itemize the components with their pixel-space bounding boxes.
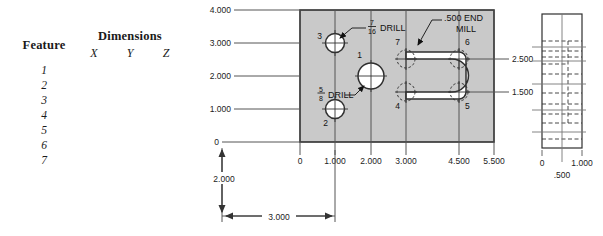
cell-2-y[interactable] bbox=[112, 77, 148, 92]
cell-1-z[interactable] bbox=[148, 62, 184, 77]
feature-label-6: 6 bbox=[465, 37, 470, 47]
origin-dim-vertical: 2.000 bbox=[213, 174, 235, 184]
cell-4-y[interactable] bbox=[112, 107, 148, 122]
side-x-tick-1000: 1.000 bbox=[571, 158, 593, 168]
row-label-6: 6 bbox=[12, 137, 76, 152]
table-row[interactable]: 6 bbox=[12, 137, 184, 152]
end-mill-label-line1: .500 END bbox=[444, 13, 484, 23]
y-tick-0: 0 bbox=[214, 137, 219, 147]
row-label-2: 2 bbox=[12, 77, 76, 92]
cell-1-x[interactable] bbox=[76, 62, 112, 77]
table-row[interactable]: 2 bbox=[12, 77, 184, 92]
origin-dimensions: 2.000 3.000 bbox=[210, 148, 335, 222]
cell-3-z[interactable] bbox=[148, 92, 184, 107]
table-row[interactable]: 1 bbox=[12, 62, 184, 77]
end-mill-label-line2: MILL bbox=[456, 24, 476, 34]
feature-label-3: 3 bbox=[317, 31, 322, 41]
row-label-1: 1 bbox=[12, 62, 76, 77]
table-row[interactable]: 7 bbox=[12, 152, 184, 167]
side-thickness-label: .500 bbox=[554, 170, 571, 180]
feature-label-7: 7 bbox=[395, 37, 400, 47]
header-axis-z: Z bbox=[148, 46, 184, 63]
cell-5-x[interactable] bbox=[76, 122, 112, 137]
cell-7-x[interactable] bbox=[76, 152, 112, 167]
feature-label-5: 5 bbox=[465, 101, 470, 111]
table-row[interactable]: 5 bbox=[12, 122, 184, 137]
drill-716-denominator: 16 bbox=[368, 28, 376, 35]
part-plan-view: 4.000 3.000 2.000 1.000 0 0 1.000 2.000 … bbox=[204, 0, 534, 236]
drill-716-label: DRILL bbox=[380, 23, 406, 33]
row-label-3: 3 bbox=[12, 92, 76, 107]
x-tick-5500: 5.500 bbox=[483, 156, 505, 166]
feature-label-2: 2 bbox=[323, 118, 328, 128]
cell-7-z[interactable] bbox=[148, 152, 184, 167]
table-row[interactable]: 4 bbox=[12, 107, 184, 122]
y-tick-2000: 2.000 bbox=[210, 71, 232, 81]
y-tick-1000: 1.000 bbox=[210, 104, 232, 114]
feature-table: Feature Dimensions X Y Z 1 2 3 bbox=[12, 28, 184, 167]
side-x-tick-0: 0 bbox=[540, 158, 545, 168]
header-axis-x: X bbox=[76, 46, 112, 63]
feature-label-1: 1 bbox=[357, 50, 362, 60]
header-feature: Feature bbox=[12, 28, 76, 62]
drill-716-numerator: 7 bbox=[370, 19, 374, 26]
x-tick-2000: 2.000 bbox=[360, 156, 382, 166]
drill-58-numerator: 5 bbox=[319, 86, 323, 93]
cell-3-x[interactable] bbox=[76, 92, 112, 107]
cell-5-z[interactable] bbox=[148, 122, 184, 137]
x-tick-4500: 4.500 bbox=[448, 156, 470, 166]
cell-1-y[interactable] bbox=[112, 62, 148, 77]
cell-6-y[interactable] bbox=[112, 137, 148, 152]
cell-2-x[interactable] bbox=[76, 77, 112, 92]
origin-dim-horizontal: 3.000 bbox=[268, 212, 290, 222]
x-tick-3000: 3.000 bbox=[395, 156, 417, 166]
cell-5-y[interactable] bbox=[112, 122, 148, 137]
y-axis-leaders bbox=[222, 10, 300, 142]
header-dimensions: Dimensions bbox=[76, 28, 184, 46]
feature-label-4: 4 bbox=[395, 101, 400, 111]
feature-table-grid: Feature Dimensions X Y Z 1 2 3 bbox=[12, 28, 184, 167]
header-axis-y: Y bbox=[112, 46, 148, 63]
cell-7-y[interactable] bbox=[112, 152, 148, 167]
table-header-row-1: Feature Dimensions bbox=[12, 28, 184, 46]
table-row[interactable]: 3 bbox=[12, 92, 184, 107]
y-tick-3000: 3.000 bbox=[210, 38, 232, 48]
row-label-5: 5 bbox=[12, 122, 76, 137]
x-tick-0: 0 bbox=[298, 156, 303, 166]
x-axis-labels: 0 1.000 2.000 3.000 4.500 5.500 bbox=[298, 156, 505, 166]
row-label-7: 7 bbox=[12, 152, 76, 167]
row-label-4: 4 bbox=[12, 107, 76, 122]
cell-6-z[interactable] bbox=[148, 137, 184, 152]
part-side-view: 0 1.000 .500 bbox=[528, 0, 603, 180]
drill-58-denominator: 8 bbox=[319, 95, 323, 102]
y-tick-4000: 4.000 bbox=[210, 5, 232, 15]
y-axis-labels: 4.000 3.000 2.000 1.000 0 bbox=[210, 5, 232, 147]
cell-3-y[interactable] bbox=[112, 92, 148, 107]
cell-2-z[interactable] bbox=[148, 77, 184, 92]
cell-4-z[interactable] bbox=[148, 107, 184, 122]
cell-6-x[interactable] bbox=[76, 137, 112, 152]
drill-58-label: DRILL bbox=[328, 90, 354, 100]
cell-4-x[interactable] bbox=[76, 107, 112, 122]
